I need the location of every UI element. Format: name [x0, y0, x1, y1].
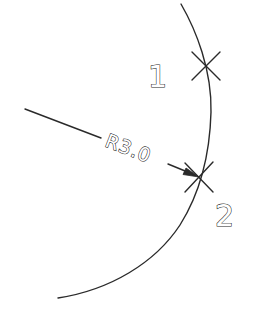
point-label-2: 2: [215, 198, 234, 233]
point-label-1: 1: [148, 59, 167, 94]
cad-drawing: R3.0 1 2: [0, 0, 259, 311]
